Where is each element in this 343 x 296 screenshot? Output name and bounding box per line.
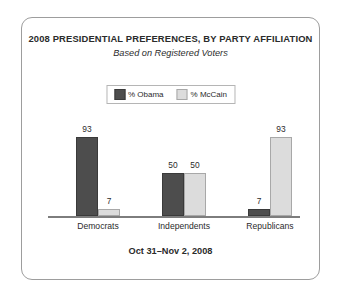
bar-value-democrats-mccain: 7	[107, 196, 112, 207]
legend-label-obama: % Obama	[128, 90, 164, 99]
plot-area: 93 7 50 50 7 93	[48, 118, 300, 216]
chart-title: 2008 PRESIDENTIAL PREFERENCES, BY PARTY …	[22, 33, 319, 44]
legend-item-mccain: % McCain	[177, 89, 227, 100]
x-axis-label-democrats: Democrats	[77, 221, 119, 231]
bar-republicans-mccain	[270, 137, 292, 216]
bar-value-republicans-obama: 7	[257, 196, 262, 207]
bar-wrap-independents-mccain: 50	[184, 160, 206, 216]
chart-card: 2008 PRESIDENTIAL PREFERENCES, BY PARTY …	[21, 17, 320, 280]
bar-wrap-republicans-mccain: 93	[270, 124, 292, 216]
bar-independents-mccain	[184, 173, 206, 216]
bar-wrap-republicans-obama: 7	[248, 196, 270, 216]
bar-democrats-obama	[76, 137, 98, 216]
bar-wrap-democrats-obama: 93	[76, 124, 98, 216]
legend-swatch-mccain-icon	[177, 89, 188, 100]
bar-value-democrats-obama: 93	[82, 124, 91, 135]
chart-subtitle: Based on Registered Voters	[22, 48, 319, 58]
bar-wrap-independents-obama: 50	[162, 160, 184, 216]
bar-group-republicans: 7 93	[248, 124, 292, 216]
x-axis-label-independents: Independents	[158, 221, 210, 231]
chart-footer-date: Oct 31–Nov 2, 2008	[22, 246, 319, 256]
bar-wrap-democrats-mccain: 7	[98, 196, 120, 216]
bar-group-democrats: 93 7	[76, 124, 120, 216]
chart-legend: % Obama % McCain	[106, 85, 235, 104]
bar-independents-obama	[162, 173, 184, 216]
bar-value-republicans-mccain: 93	[276, 124, 285, 135]
bar-democrats-mccain	[98, 209, 120, 216]
legend-label-mccain: % McCain	[191, 90, 227, 99]
x-axis-label-republicans: Republicans	[246, 221, 293, 231]
bar-value-independents-obama: 50	[168, 160, 177, 171]
legend-item-obama: % Obama	[114, 89, 164, 100]
bar-group-independents: 50 50	[162, 160, 206, 216]
legend-swatch-obama-icon	[114, 89, 125, 100]
bar-republicans-obama	[248, 209, 270, 216]
x-axis-baseline	[48, 216, 300, 218]
bar-value-independents-mccain: 50	[190, 160, 199, 171]
